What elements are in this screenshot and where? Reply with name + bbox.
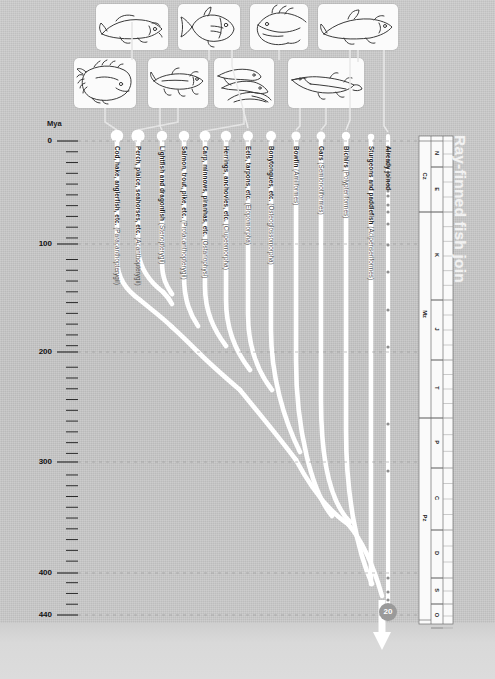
branch-label-b5: Carp, minnows, piranhas, etc. (Ostarioph…: [202, 146, 208, 278]
branch-scientific-name: (Acipenseriformes): [368, 225, 375, 281]
branch-label-b8: Bonytongues, etc. (Osteoglossomorpha): [268, 146, 274, 265]
branch-label-b9: Bowfin (Amiiformes): [293, 146, 299, 205]
branch-common-name: Already joined: [385, 146, 392, 190]
branch-label-b12: Sturgeons and paddlefish (Acipenseriform…: [368, 146, 374, 280]
branch-common-name: Gars: [318, 146, 325, 161]
icon-connectors: [105, 22, 358, 131]
branch-common-name: Bowfin: [293, 146, 300, 167]
geologic-era-Cz: Cz: [422, 170, 428, 182]
branch-scientific-name: (Elopomorpha): [245, 201, 252, 245]
geologic-era-Pz: Pz: [422, 512, 428, 524]
branch-common-name: Sturgeons and paddlefish: [368, 146, 375, 225]
axis-tick-label-0: 0: [22, 136, 52, 145]
axis-unit-label: Mya: [47, 119, 62, 128]
geologic-era-Mz: Mz: [422, 308, 428, 320]
axis-tick-label-300: 300: [22, 457, 52, 466]
branch-common-name: Cod, hake, anglerfish, etc.: [114, 146, 121, 225]
branch-scientific-name: (Osteoglossomorpha): [268, 201, 275, 264]
branch-label-b4: Salmon, trout, pike, etc. (Protacanthopt…: [181, 146, 187, 280]
branch-label-b1: Cod, hake, anglerfish, etc. (Paracanthop…: [114, 146, 120, 285]
branch-common-name: Salmon, trout, pike, etc.: [181, 146, 188, 218]
phylogeny-figure: Mya 0100200300400440 Cod, hake, anglerfi…: [0, 0, 495, 679]
geologic-period-C: C: [434, 492, 440, 504]
axis-minor-ticks: [66, 152, 78, 604]
branch-common-name: Carp, minnows, piranhas, etc.: [202, 146, 209, 237]
branch-label-b6: Herrings, anchovies, etc. (Clupeomorpha): [223, 146, 229, 270]
branch-label-b10: Gars (Semionotiformes): [318, 146, 324, 215]
axis-tick-label-100: 100: [22, 239, 52, 248]
branch-common-name: Bichirs: [343, 146, 350, 168]
geologic-period-S: S: [434, 584, 440, 596]
geologic-period-D: D: [434, 547, 440, 559]
branch-scientific-name: (Protacanthopterygii): [181, 218, 188, 279]
branch-scientific-name: (Stenopterygii): [159, 221, 166, 265]
branch-scientific-name: (Semionotiformes): [318, 161, 325, 215]
geologic-period-O: O: [434, 609, 440, 621]
branch-scientific-name: (Clupeomorpha): [223, 222, 230, 270]
root-node-number: 20: [379, 603, 397, 621]
branch-label-b2: Perch, plaice, seahorses, etc. (Acanthop…: [135, 146, 141, 286]
branch-scientific-name: (Amiiformes): [293, 167, 300, 205]
branch-common-name: Perch, plaice, seahorses, etc.: [135, 146, 142, 235]
branch-scientific-name: (Acanthopterygii): [135, 235, 142, 285]
tree-graphics: [0, 0, 495, 679]
axis-tick-label-200: 200: [22, 347, 52, 356]
axis-tick-label-440: 440: [22, 610, 52, 619]
geologic-period-T: T: [434, 382, 440, 394]
branch-common-name: Lightfish and dragonfish: [159, 146, 166, 221]
branch-scientific-name: (Polypteriformes): [343, 168, 350, 219]
branch-common-name: Eels, tarpons, etc.: [245, 146, 252, 201]
geologic-period-J: J: [434, 323, 440, 335]
branch-label-b13: Already joined: [385, 146, 391, 190]
branch-common-name: Bonytongues, etc.: [268, 146, 275, 201]
tree-tips: [111, 129, 374, 142]
geologic-period-K: K: [434, 249, 440, 261]
icon-connectors-2: [160, 50, 388, 132]
branch-scientific-name: (Ostariophysi): [202, 237, 209, 279]
geologic-period-N: N: [434, 147, 440, 159]
axis-tick-label-400: 400: [22, 568, 52, 577]
branch-label-b3: Lightfish and dragonfish (Stenopterygii): [159, 146, 165, 265]
branch-common-name: Herrings, anchovies, etc.: [223, 146, 230, 222]
geologic-period-E: E: [434, 183, 440, 195]
branch-scientific-name: (Paracanthopterygii): [114, 225, 121, 285]
branch-label-b7: Eels, tarpons, etc. (Elopomorpha): [245, 146, 251, 245]
branch-label-b11: Bichirs (Polypteriformes): [343, 146, 349, 218]
geologic-period-P: P: [434, 436, 440, 448]
page-title: Ray-finned fish join: [451, 135, 469, 283]
